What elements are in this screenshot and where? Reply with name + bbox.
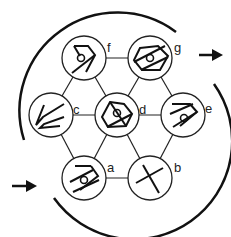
node-f bbox=[62, 36, 106, 80]
node-label-g: g bbox=[174, 40, 181, 55]
node-label-e: e bbox=[205, 101, 212, 116]
output-arrow-icon bbox=[199, 49, 223, 61]
node-d bbox=[95, 93, 139, 137]
node-label-a: a bbox=[107, 160, 115, 175]
node-a bbox=[62, 156, 106, 200]
node-c bbox=[29, 93, 73, 137]
hex-node-diagram: f g c d bbox=[0, 0, 231, 237]
node-label-b: b bbox=[174, 160, 181, 175]
node-b bbox=[128, 156, 172, 200]
node-label-c: c bbox=[73, 102, 80, 117]
node-label-f: f bbox=[107, 40, 111, 55]
node-g bbox=[128, 36, 172, 80]
node-label-d: d bbox=[139, 102, 146, 117]
input-arrow-icon bbox=[12, 180, 37, 192]
node-e bbox=[161, 93, 205, 137]
